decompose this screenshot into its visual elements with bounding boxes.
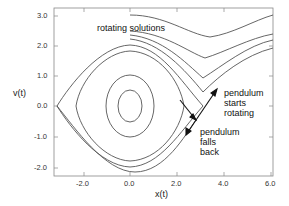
annotation-line: rotating <box>224 108 264 118</box>
ytick-1: 1.0 <box>37 71 47 80</box>
xtick-0: 0.0 <box>124 179 134 188</box>
annotation-starts-rotating: pendulum starts rotating <box>224 88 264 118</box>
annotation-line: falls <box>200 137 240 147</box>
xtick-m2: -2.0 <box>76 179 89 188</box>
separatrix <box>57 45 203 167</box>
x-axis-label: x(t) <box>155 189 168 199</box>
orbit-outer <box>76 51 184 161</box>
ytick-m1: -1.0 <box>34 132 47 141</box>
annotation-rotating-solutions: rotating solutions <box>97 23 165 33</box>
xtick-4: 4.0 <box>218 179 228 188</box>
orbit-inner <box>118 90 142 122</box>
xtick-2: 2.0 <box>171 179 181 188</box>
ytick-3: 3.0 <box>37 11 47 20</box>
ytick-0: 0.0 <box>37 101 47 110</box>
ytick-m2: -2.0 <box>34 163 47 172</box>
annotation-falls-back: pendulum falls back <box>200 127 240 157</box>
xtick-6: 6.0 <box>265 179 275 188</box>
annotation-line: starts <box>224 98 264 108</box>
rotating-1 <box>130 39 273 92</box>
orbit-middle <box>106 75 154 137</box>
annotation-line: pendulum <box>224 88 264 98</box>
annotation-line: pendulum <box>200 127 240 137</box>
y-axis-label: v(t) <box>13 88 26 98</box>
annotation-line: back <box>200 147 240 157</box>
ytick-2: 2.0 <box>37 41 47 50</box>
